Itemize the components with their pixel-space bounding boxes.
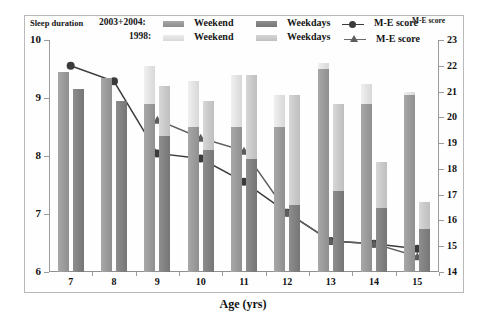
legend-swatch-weekdays-2003 [256, 21, 277, 27]
bar [246, 159, 257, 272]
x-axis-tick [222, 272, 223, 276]
x-axis-tick-label: 13 [316, 276, 346, 287]
y2-axis-tick-label: 17 [447, 189, 469, 200]
y-axis-tick-label: 9 [19, 91, 41, 103]
y-axis-tick-label: 6 [19, 265, 41, 277]
legend-label-weekend-2003: Weekend [194, 17, 233, 28]
x-axis-tick-label: 10 [186, 276, 216, 287]
x-axis-tick-label: 14 [359, 276, 389, 287]
y2-axis-tick [439, 195, 444, 196]
x-axis-title: Age (yrs) [0, 297, 486, 312]
bar [419, 229, 430, 273]
legend-group-2003: 2003+2004: [99, 17, 146, 27]
x-axis-tick [266, 272, 267, 276]
y-axis-tick [44, 272, 49, 273]
y2-axis-tick-label: 14 [447, 266, 469, 277]
y2-axis-tick-label: 16 [447, 214, 469, 225]
bar [58, 72, 69, 272]
x-axis-tick-label: 11 [229, 276, 259, 287]
legend-left-axis-title: Sleep duration [30, 18, 83, 28]
bar [203, 150, 214, 272]
x-axis-tick-label: 15 [402, 276, 432, 287]
x-axis-tick [136, 272, 137, 276]
y2-axis-tick-label: 18 [447, 163, 469, 174]
bar [159, 136, 170, 272]
y2-axis-tick-label: 15 [447, 240, 469, 251]
bar [188, 127, 199, 272]
x-axis-tick [352, 272, 353, 276]
bar [361, 104, 372, 272]
y2-axis-tick [439, 143, 444, 144]
y-axis-tick [44, 40, 49, 41]
y-axis-tick-label: 10 [19, 33, 41, 45]
legend-marker-circle-icon [349, 21, 356, 28]
y2-axis-tick [439, 246, 444, 247]
plot-area: 1098762322212019181716151478910111213141… [49, 40, 439, 272]
bar [289, 205, 300, 272]
x-axis-tick [396, 272, 397, 276]
bar [318, 69, 329, 272]
bar [274, 127, 285, 272]
bar [73, 89, 84, 272]
x-axis-tick-label: 8 [99, 276, 129, 287]
y2-axis-tick-label: 21 [447, 86, 469, 97]
bar [376, 208, 387, 272]
y2-axis-tick-label: 22 [447, 60, 469, 71]
y2-axis-tick [439, 40, 444, 41]
y-axis-tick [44, 98, 49, 99]
x-axis-tick-label: 9 [142, 276, 172, 287]
bar [144, 104, 155, 272]
x-axis-tick [309, 272, 310, 276]
y2-axis-tick-label: 23 [447, 34, 469, 45]
y-axis-tick-label: 7 [19, 207, 41, 219]
bar [333, 191, 344, 272]
chart-root: Sleep duration 2003+2004: 1998: Weekend … [0, 0, 486, 320]
y2-axis-tick [439, 92, 444, 93]
y-axis-tick-label: 8 [19, 149, 41, 161]
bar [116, 101, 127, 272]
y2-axis-tick [439, 220, 444, 221]
x-axis-tick-label: 7 [56, 276, 86, 287]
y2-axis-tick [439, 117, 444, 118]
y2-axis-tick-label: 20 [447, 111, 469, 122]
legend-label-weekdays-2003: Weekdays [287, 17, 330, 28]
bar [404, 95, 415, 272]
x-axis-tick-label: 12 [272, 276, 302, 287]
bar [231, 127, 242, 272]
legend-swatch-weekend-2003 [163, 21, 184, 27]
y2-axis-tick-label: 19 [447, 137, 469, 148]
x-axis-tick [439, 272, 440, 276]
y-axis-tick [44, 214, 49, 215]
y2-axis-tick [439, 66, 444, 67]
x-axis-tick [92, 272, 93, 276]
y2-axis-tick [439, 169, 444, 170]
legend-right-axis-title: M-E score [412, 16, 445, 25]
x-axis-tick [179, 272, 180, 276]
y-axis-tick [44, 156, 49, 157]
bar [101, 78, 112, 272]
